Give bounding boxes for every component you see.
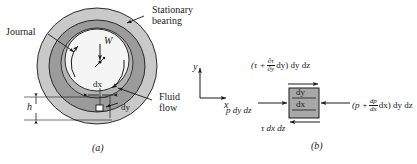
element-dy-label: dy <box>296 88 305 98</box>
dx-label: dx <box>93 80 102 90</box>
top-shear-prefix: (τ + <box>251 60 266 70</box>
right-pressure-prefix: (p + <box>352 100 368 110</box>
top-shear-mid: dy) <box>276 60 288 70</box>
left-pressure-text: p dy dz <box>226 105 252 115</box>
right-pressure-suffix: dy dz <box>393 100 413 110</box>
top-shear-force-label: (τ +∂τ∂ydy) dy dz <box>251 58 310 73</box>
panel-b-caption: (b) <box>311 141 323 152</box>
fluid-flow-label: Fluid flow <box>159 92 180 114</box>
top-shear-denominator: ∂y <box>267 65 276 73</box>
top-shear-numerator: ∂τ <box>267 58 276 65</box>
right-pressure-fraction: dpdx <box>369 98 378 113</box>
bottom-shear-text: τ dx dz <box>261 123 285 133</box>
right-pressure-label: (p +dpdxdx) dy dz <box>352 98 413 113</box>
right-pressure-denominator: dx <box>369 105 378 113</box>
fluid-flow-label-line2: flow <box>159 103 180 114</box>
right-pressure-mid: dx) <box>379 100 391 110</box>
journal-label: Journal <box>6 27 35 38</box>
bottom-shear-force-label: τ dx dz <box>261 124 285 134</box>
right-pressure-numerator: dp <box>369 98 378 105</box>
journal-bearing-figure: Stationary bearing Journal Fluid flow W … <box>0 0 417 164</box>
y-axis-label: y <box>193 62 197 73</box>
stationary-bearing-label: Stationary bearing <box>152 5 193 27</box>
top-shear-suffix: dy dz <box>290 60 310 70</box>
film-thickness-label-h: h <box>27 102 32 113</box>
figure-vector-graphics <box>0 0 417 164</box>
bearing-center-dot <box>103 57 105 59</box>
left-pressure-label: p dy dz <box>226 106 252 116</box>
element-dx-label: dx <box>296 100 305 110</box>
journal-center-dot <box>98 60 101 63</box>
fluid-element-square <box>96 105 103 111</box>
dy-label: dy <box>121 103 130 113</box>
top-shear-fraction: ∂τ∂y <box>267 58 276 73</box>
stationary-bearing-label-line2: bearing <box>152 16 193 27</box>
panel-a-caption: (a) <box>92 143 104 154</box>
load-label-W: W <box>104 36 112 47</box>
coordinate-axes <box>200 68 226 98</box>
